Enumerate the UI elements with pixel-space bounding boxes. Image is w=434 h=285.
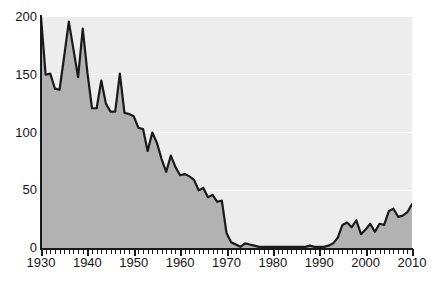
x-tick-label-2000: 2000 — [341, 255, 391, 270]
x-minor-tick-1981 — [278, 249, 279, 254]
x-minor-tick-1974 — [245, 249, 246, 254]
x-minor-tick-2008 — [403, 249, 404, 254]
x-minor-tick-1997 — [352, 249, 353, 254]
x-minor-tick-1945 — [111, 249, 112, 254]
x-minor-tick-2006 — [393, 249, 394, 254]
x-minor-tick-2004 — [384, 249, 385, 254]
x-minor-tick-2001 — [370, 249, 371, 254]
x-minor-tick-1953 — [148, 249, 149, 254]
x-minor-tick-1952 — [143, 249, 144, 254]
x-minor-tick-1949 — [129, 249, 130, 254]
x-minor-tick-1972 — [236, 249, 237, 254]
x-minor-tick-1942 — [97, 249, 98, 254]
x-minor-tick-1936 — [69, 249, 70, 254]
x-minor-tick-1986 — [301, 249, 302, 254]
x-minor-tick-1967 — [213, 249, 214, 254]
x-minor-tick-2005 — [389, 249, 390, 254]
x-minor-tick-1954 — [152, 249, 153, 254]
x-minor-tick-1985 — [296, 249, 297, 254]
x-tick-label-1930: 1930 — [16, 255, 66, 270]
x-minor-tick-2007 — [398, 249, 399, 254]
x-minor-tick-1931 — [46, 249, 47, 254]
x-minor-tick-1998 — [356, 249, 357, 254]
area-fill-path — [41, 17, 412, 248]
x-minor-tick-1979 — [268, 249, 269, 254]
x-minor-tick-1969 — [222, 249, 223, 254]
area-chart-svg — [41, 17, 412, 248]
x-minor-tick-1937 — [73, 249, 74, 254]
x-minor-tick-1947 — [120, 249, 121, 254]
y-tick-label-100: 100 — [1, 126, 37, 139]
x-minor-tick-1977 — [259, 249, 260, 254]
x-minor-tick-1973 — [240, 249, 241, 254]
x-minor-tick-1939 — [83, 249, 84, 254]
x-minor-tick-1999 — [361, 249, 362, 254]
x-minor-tick-1968 — [217, 249, 218, 254]
x-minor-tick-1938 — [78, 249, 79, 254]
x-minor-tick-1956 — [162, 249, 163, 254]
x-minor-tick-1971 — [231, 249, 232, 254]
x-minor-tick-1935 — [64, 249, 65, 254]
x-tick-label-2010: 2010 — [387, 255, 434, 270]
x-minor-tick-1976 — [254, 249, 255, 254]
x-minor-tick-1941 — [92, 249, 93, 254]
x-minor-tick-1961 — [185, 249, 186, 254]
x-tick-label-1990: 1990 — [294, 255, 344, 270]
x-minor-tick-1989 — [315, 249, 316, 254]
x-minor-tick-1946 — [115, 249, 116, 254]
chart-plot-area — [41, 17, 412, 248]
x-minor-tick-1963 — [194, 249, 195, 254]
x-tick-label-1980: 1980 — [248, 255, 298, 270]
x-minor-tick-1995 — [342, 249, 343, 254]
x-tick-label-1970: 1970 — [202, 255, 252, 270]
x-axis-tick-labels: 193019401950196019701980199020002010 — [0, 255, 434, 273]
x-minor-tick-1966 — [208, 249, 209, 254]
x-tick-label-1960: 1960 — [155, 255, 205, 270]
x-minor-tick-1982 — [282, 249, 283, 254]
x-minor-tick-1943 — [101, 249, 102, 254]
x-minor-tick-1984 — [291, 249, 292, 254]
x-minor-tick-1994 — [338, 249, 339, 254]
x-minor-tick-1957 — [166, 249, 167, 254]
x-minor-tick-1962 — [189, 249, 190, 254]
x-minor-tick-1934 — [60, 249, 61, 254]
x-minor-tick-1958 — [171, 249, 172, 254]
figure-container: 050100150200 193019401950196019701980199… — [0, 0, 434, 285]
x-minor-tick-1993 — [333, 249, 334, 254]
x-minor-tick-2009 — [407, 249, 408, 254]
x-minor-tick-1959 — [175, 249, 176, 254]
y-tick-label-150: 150 — [1, 68, 37, 81]
y-axis-tick-labels: 050100150200 — [0, 0, 37, 285]
x-minor-tick-1987 — [305, 249, 306, 254]
x-minor-tick-1992 — [329, 249, 330, 254]
y-tick-label-200: 200 — [1, 10, 37, 23]
x-minor-tick-1991 — [324, 249, 325, 254]
x-minor-tick-1944 — [106, 249, 107, 254]
x-minor-tick-1955 — [157, 249, 158, 254]
x-tick-label-1940: 1940 — [62, 255, 112, 270]
x-minor-tick-1988 — [310, 249, 311, 254]
x-minor-tick-1932 — [50, 249, 51, 254]
x-minor-tick-2003 — [380, 249, 381, 254]
x-minor-tick-1964 — [199, 249, 200, 254]
x-minor-tick-1933 — [55, 249, 56, 254]
x-minor-tick-1983 — [287, 249, 288, 254]
x-minor-tick-2002 — [375, 249, 376, 254]
x-minor-tick-1948 — [124, 249, 125, 254]
x-minor-tick-1951 — [138, 249, 139, 254]
y-axis-line — [40, 15, 42, 250]
x-minor-tick-1978 — [264, 249, 265, 254]
x-minor-tick-1975 — [250, 249, 251, 254]
x-tick-label-1950: 1950 — [109, 255, 159, 270]
x-minor-tick-1965 — [203, 249, 204, 254]
y-tick-label-50: 50 — [1, 183, 37, 196]
x-minor-tick-1996 — [347, 249, 348, 254]
